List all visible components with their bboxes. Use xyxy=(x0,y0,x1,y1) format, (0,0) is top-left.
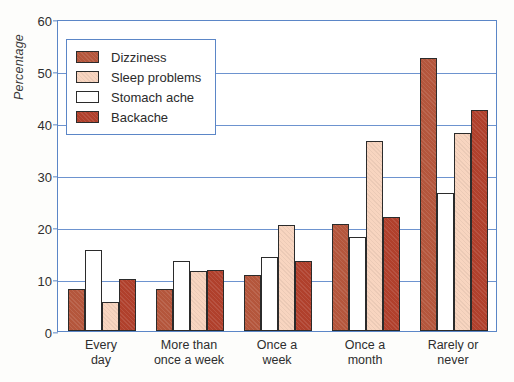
bar xyxy=(349,237,366,331)
y-axis-tick-label: 50 xyxy=(38,66,52,81)
y-axis-tick-label: 60 xyxy=(38,14,52,29)
legend-label: Dizziness xyxy=(111,50,167,65)
bar-group xyxy=(410,21,498,331)
bar xyxy=(278,225,295,331)
x-axis-label-line: once a week xyxy=(145,353,233,368)
bar xyxy=(471,110,488,331)
x-axis-label-line: Once a xyxy=(321,338,409,353)
legend-label: Backache xyxy=(111,110,168,125)
bar xyxy=(366,141,383,331)
x-axis-label-line: month xyxy=(321,353,409,368)
bar xyxy=(454,133,471,331)
x-axis-label-line: Every xyxy=(57,338,145,353)
bar xyxy=(437,193,454,331)
bar xyxy=(85,250,102,331)
x-axis-label: Everyday xyxy=(57,338,145,368)
x-axis-label-line: week xyxy=(233,353,321,368)
y-axis-tick-mark xyxy=(53,332,58,333)
legend-swatch xyxy=(76,71,99,83)
bar xyxy=(383,217,400,331)
chart-legend: DizzinessSleep problemsStomach acheBacka… xyxy=(66,39,216,135)
bar xyxy=(68,289,85,331)
bar-group xyxy=(322,21,410,331)
x-axis-label-line: never xyxy=(409,353,497,368)
bar xyxy=(420,58,437,331)
legend-item: Backache xyxy=(76,107,201,127)
legend-swatch xyxy=(76,111,99,123)
y-axis-title: Percentage xyxy=(12,12,26,122)
x-axis-label: More thanonce a week xyxy=(145,338,233,368)
legend-item: Stomach ache xyxy=(76,87,201,107)
legend-label: Stomach ache xyxy=(111,90,194,105)
x-axis-label-line: day xyxy=(57,353,145,368)
legend-item: Dizziness xyxy=(76,47,201,67)
legend-label: Sleep problems xyxy=(111,70,201,85)
bar xyxy=(244,275,261,331)
bar xyxy=(261,257,278,331)
legend-item: Sleep problems xyxy=(76,67,201,87)
y-axis-tick-label: 0 xyxy=(45,326,52,341)
bar xyxy=(156,289,173,331)
x-axis-label-line: More than xyxy=(145,338,233,353)
y-axis-tick-label: 40 xyxy=(38,118,52,133)
y-axis-tick-label: 10 xyxy=(38,274,52,289)
bar xyxy=(190,271,207,331)
x-axis-label-line: Rarely or xyxy=(409,338,497,353)
caption-strip xyxy=(0,374,514,382)
bar xyxy=(102,302,119,331)
x-axis-label: Once aweek xyxy=(233,338,321,368)
x-axis-label: Rarely ornever xyxy=(409,338,497,368)
legend-swatch xyxy=(76,51,99,63)
x-axis-label-line: Once a xyxy=(233,338,321,353)
bar xyxy=(119,279,136,331)
x-axis-label: Once amonth xyxy=(321,338,409,368)
y-axis-tick-label: 30 xyxy=(38,170,52,185)
bar xyxy=(332,224,349,331)
bar-group xyxy=(234,21,322,331)
bar xyxy=(207,270,224,331)
y-axis-tick-label: 20 xyxy=(38,222,52,237)
chart-figure: Percentage 0102030405060 EverydayMore th… xyxy=(0,0,514,382)
bar xyxy=(173,261,190,331)
bar xyxy=(295,261,312,331)
legend-swatch xyxy=(76,91,99,103)
